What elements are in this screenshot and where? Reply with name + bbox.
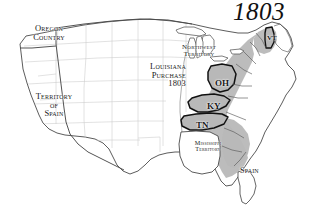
state-label-oh: OH [215,78,229,88]
region-label-line: Country [16,33,82,42]
region-label-northwest-territory: Northwest Territory [168,44,230,58]
region-label-line: Spain [240,167,259,175]
region-label-line: Territory [181,146,235,152]
region-label-territory-of-spain: Territory of Spain [14,92,94,118]
region-label-line: Territory [168,51,230,58]
region-label-oregon-country: Oregon Country [16,24,82,41]
region-label-louisiana-purchase: Louisiana Purchase 1803 [108,62,186,88]
region-label-line: 1803 [108,79,186,88]
region-label-mississippi-territory: Mississippi Territory [181,140,235,153]
region-label-line: Spain [14,109,94,118]
state-label-vt: VT [267,34,277,42]
state-label-ky: KY [207,101,221,111]
historical-map-1803: 1803 Oregon Country Territory of Spain L… [0,0,311,219]
state-label-tn: TN [196,120,209,130]
map-title-year: 1803 [233,0,285,26]
region-label-spain-florida: Spain [240,167,259,175]
